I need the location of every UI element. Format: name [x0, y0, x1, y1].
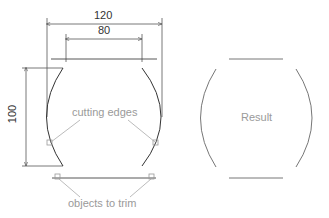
- dimension-80-label: 80: [98, 24, 110, 36]
- leader-cutting-right: [128, 120, 155, 142]
- dimension-80: [66, 34, 142, 62]
- leader-trim-left: [59, 179, 80, 197]
- dimension-100-label: 100: [6, 105, 18, 123]
- cutting-edges-label: cutting edges: [72, 106, 137, 118]
- diagram-canvas: [0, 0, 329, 218]
- dimension-120-label: 120: [94, 9, 112, 21]
- objects-to-trim-label: objects to trim: [68, 197, 136, 209]
- leader-trim-right: [130, 179, 151, 197]
- leader-cutting-left: [51, 120, 80, 142]
- dimension-100: [22, 68, 63, 166]
- left-cutting-arc: [47, 68, 64, 166]
- result-label: Result: [241, 111, 272, 123]
- right-cutting-arc: [142, 68, 161, 166]
